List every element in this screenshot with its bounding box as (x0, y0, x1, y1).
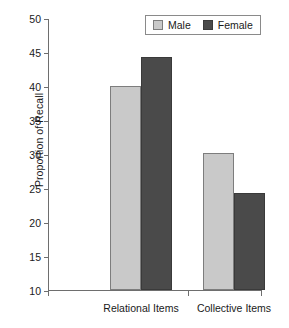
legend-item-male: Male (153, 19, 191, 31)
y-tick-mark (44, 189, 48, 190)
bar-relational-items-male (110, 86, 141, 290)
legend-label-male: Male (168, 19, 191, 31)
y-tick-mark (44, 155, 48, 156)
y-tick-label: 30 (29, 149, 41, 161)
caption-fragment (8, 319, 281, 326)
y-tick-label: 35 (29, 115, 41, 127)
x-axis-line (48, 290, 262, 291)
x-tick-mark (188, 291, 189, 296)
y-tick-label: 25 (29, 183, 41, 195)
y-tick-mark (44, 87, 48, 88)
y-tick-mark (44, 121, 48, 122)
y-tick-label: 20 (29, 217, 41, 229)
y-tick-mark (44, 19, 48, 20)
y-tick-mark (44, 223, 48, 224)
y-tick-mark (44, 257, 48, 258)
y-tick-label: 45 (29, 47, 41, 59)
legend-swatch-male-icon (153, 20, 163, 30)
bar-collective-items-female (234, 193, 265, 290)
bar-relational-items-female (141, 57, 172, 290)
y-tick-label: 50 (29, 13, 41, 25)
y-tick-label: 40 (29, 81, 41, 93)
bar-chart-figure: Proportion of Recall 101520253035404550 … (0, 0, 289, 328)
legend-swatch-female-icon (203, 20, 213, 30)
x-axis-label-collective-items: Collective Items (197, 302, 271, 314)
legend-item-female: Female (203, 19, 253, 31)
bar-collective-items-male (203, 153, 234, 290)
y-axis-line (48, 19, 49, 291)
y-tick-label: 10 (29, 285, 41, 297)
y-tick-mark (44, 53, 48, 54)
y-tick-label: 15 (29, 251, 41, 263)
plot-area: 101520253035404550 Relational ItemsColle… (48, 19, 262, 291)
legend-label-female: Female (218, 19, 253, 31)
y-axis-title: Proportion of Recall (33, 40, 45, 240)
chart-legend: Male Female (145, 15, 261, 35)
x-tick-mark (261, 291, 262, 296)
x-tick-mark (48, 291, 49, 296)
x-axis-label-relational-items: Relational Items (103, 302, 178, 314)
